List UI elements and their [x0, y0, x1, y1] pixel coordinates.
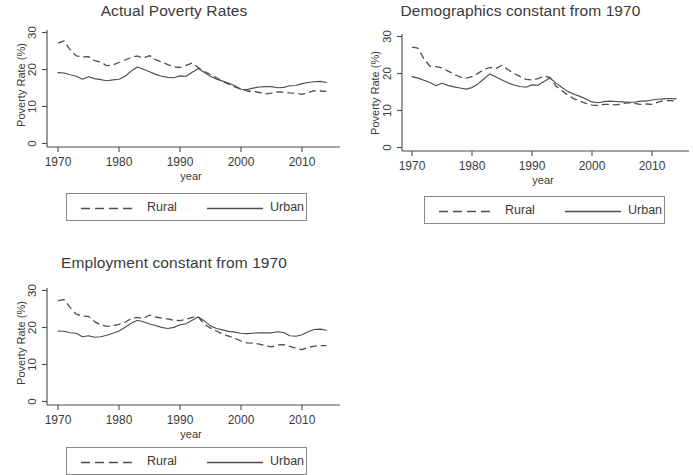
- x-tick-label: 2000: [568, 159, 616, 173]
- y-tick-label: 30: [26, 280, 39, 302]
- panel-title: Employment constant from 1970: [0, 254, 348, 272]
- y-tick-label: 20: [26, 317, 39, 339]
- legend-label-rural: Rural: [505, 203, 535, 217]
- series-line-urban: [58, 317, 326, 337]
- panel-title: Demographics constant from 1970: [348, 2, 693, 20]
- panel-title: Actual Poverty Rates: [0, 2, 348, 20]
- plot-area: [40, 22, 342, 162]
- y-tick-label: 10: [26, 354, 39, 376]
- panel-demographics-constant: Demographics constant from 1970 Poverty …: [348, 0, 693, 232]
- series-line-rural: [412, 47, 676, 105]
- legend-swatch-rural: [81, 461, 137, 463]
- legend-swatch-urban: [207, 461, 263, 463]
- y-tick-label: 0: [26, 133, 39, 155]
- x-tick-label: 1990: [156, 413, 204, 427]
- legend-swatch-urban: [207, 207, 263, 209]
- legend-label-urban: Urban: [270, 454, 304, 468]
- series-line-urban: [58, 67, 326, 90]
- legend: Rural Urban: [66, 193, 307, 221]
- plot-area: [40, 280, 342, 420]
- y-tick-label: 10: [381, 100, 394, 122]
- y-tick-label: 20: [26, 59, 39, 81]
- legend-swatch-rural: [439, 210, 495, 212]
- x-tick-label: 1980: [95, 413, 143, 427]
- y-axis-label: Poverty Rate (%): [368, 33, 382, 153]
- plot-svg: [395, 26, 691, 166]
- x-tick-label: 1980: [448, 159, 496, 173]
- x-axis-label: year: [40, 428, 342, 440]
- legend: Rural Urban: [66, 447, 307, 475]
- x-tick-label: 1980: [95, 155, 143, 169]
- series-line-urban: [412, 74, 676, 103]
- x-tick-label: 1970: [34, 155, 82, 169]
- y-tick-label: 20: [381, 63, 394, 85]
- y-tick-label: 0: [381, 137, 394, 159]
- plot-area: [395, 26, 691, 166]
- x-tick-label: 2000: [217, 413, 265, 427]
- x-tick-label: 1970: [388, 159, 436, 173]
- y-tick-label: 30: [381, 26, 394, 48]
- plot-svg: [40, 22, 342, 162]
- y-tick-label: 10: [26, 96, 39, 118]
- legend-label-urban: Urban: [270, 200, 304, 214]
- legend-label-rural: Rural: [147, 454, 177, 468]
- legend-swatch-rural: [81, 207, 137, 209]
- legend-label-urban: Urban: [628, 203, 662, 217]
- plot-svg: [40, 280, 342, 420]
- x-tick-label: 2010: [278, 413, 326, 427]
- x-axis-label: year: [395, 174, 691, 186]
- x-axis-label: year: [40, 170, 342, 182]
- y-tick-label: 30: [26, 22, 39, 44]
- series-line-rural: [58, 300, 326, 350]
- panel-actual-poverty-rates: Actual Poverty Rates Poverty Rate (%) 30…: [0, 0, 348, 232]
- x-tick-label: 2010: [278, 155, 326, 169]
- legend-label-rural: Rural: [147, 200, 177, 214]
- legend: Rural Urban: [424, 196, 665, 224]
- legend-swatch-urban: [565, 210, 621, 212]
- x-tick-label: 2000: [217, 155, 265, 169]
- x-tick-label: 1990: [156, 155, 204, 169]
- x-tick-label: 1970: [34, 413, 82, 427]
- x-tick-label: 2010: [628, 159, 676, 173]
- x-tick-label: 1990: [508, 159, 556, 173]
- y-tick-label: 0: [26, 391, 39, 413]
- panel-employment-constant: Employment constant from 1970 Poverty Ra…: [0, 250, 348, 475]
